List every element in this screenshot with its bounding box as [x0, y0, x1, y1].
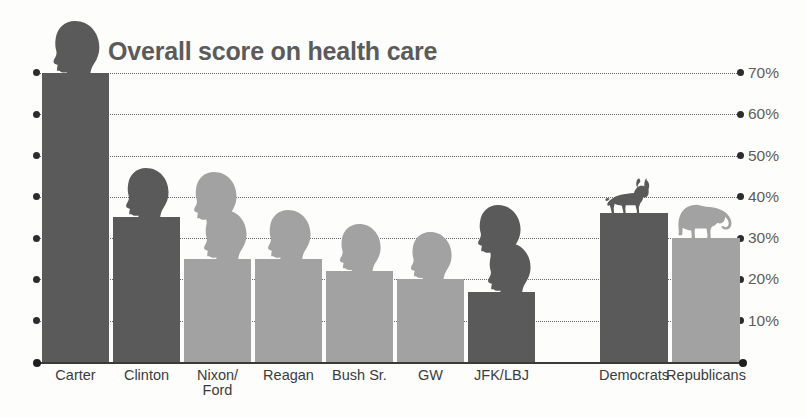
- y-tick-dot-right: [737, 69, 744, 76]
- gridline: [36, 156, 737, 157]
- plot-area: 70%60%50%40%30%20%10% CarterClintonNixon…: [0, 0, 806, 417]
- x-axis-end-dot: [739, 359, 747, 367]
- y-tick-dot-right: [737, 193, 744, 200]
- gridline: [36, 73, 737, 74]
- elephant-silhouette-icon: [676, 200, 738, 240]
- bar-nixon-ford: [184, 259, 251, 362]
- bar-gw: [397, 279, 464, 362]
- head-silhouette-icon: [484, 242, 532, 295]
- x-axis-line: [36, 362, 743, 364]
- y-tick-dot-left: [33, 69, 40, 76]
- bar-clinton: [113, 217, 180, 362]
- bar-democrats: [600, 213, 668, 362]
- y-tick-label: 20%: [748, 270, 779, 288]
- y-tick-dot-right: [737, 152, 744, 159]
- x-axis-label: Republicans: [658, 368, 754, 383]
- y-tick-label: 40%: [748, 188, 779, 206]
- bar-reagan: [255, 259, 322, 362]
- bar-carter: [42, 73, 109, 362]
- y-tick-label: 60%: [748, 105, 779, 123]
- y-tick-dot-left: [33, 193, 40, 200]
- y-tick-dot-right: [737, 111, 744, 118]
- y-tick-label: 70%: [748, 64, 779, 82]
- bar-jfk-lbj: [468, 292, 535, 362]
- y-tick-dot-left: [33, 276, 40, 283]
- head-silhouette-icon: [122, 167, 170, 220]
- y-tick-label: 30%: [748, 229, 779, 247]
- bar-republicans: [672, 238, 740, 362]
- y-tick-label: 10%: [748, 312, 779, 330]
- y-tick-dot-left: [33, 317, 40, 324]
- head-silhouette-icon: [407, 231, 453, 282]
- y-tick-label: 50%: [748, 147, 779, 165]
- gridline: [36, 114, 737, 115]
- y-tick-dot-left: [33, 235, 40, 242]
- head-silhouette-icon: [336, 223, 382, 274]
- head-silhouette-icon: [49, 20, 101, 77]
- x-axis-label: JFK/LBJ: [454, 368, 549, 383]
- x-axis-origin-dot: [33, 359, 41, 367]
- y-tick-dot-left: [33, 152, 40, 159]
- donkey-silhouette-icon: [605, 175, 663, 215]
- chart-root: Overall score on health care 70%60%50%40…: [0, 0, 806, 417]
- head-silhouette-icon: [264, 209, 312, 262]
- y-tick-dot-left: [33, 111, 40, 118]
- head-silhouette-icon: [200, 209, 248, 262]
- bar-bush-sr: [326, 271, 393, 362]
